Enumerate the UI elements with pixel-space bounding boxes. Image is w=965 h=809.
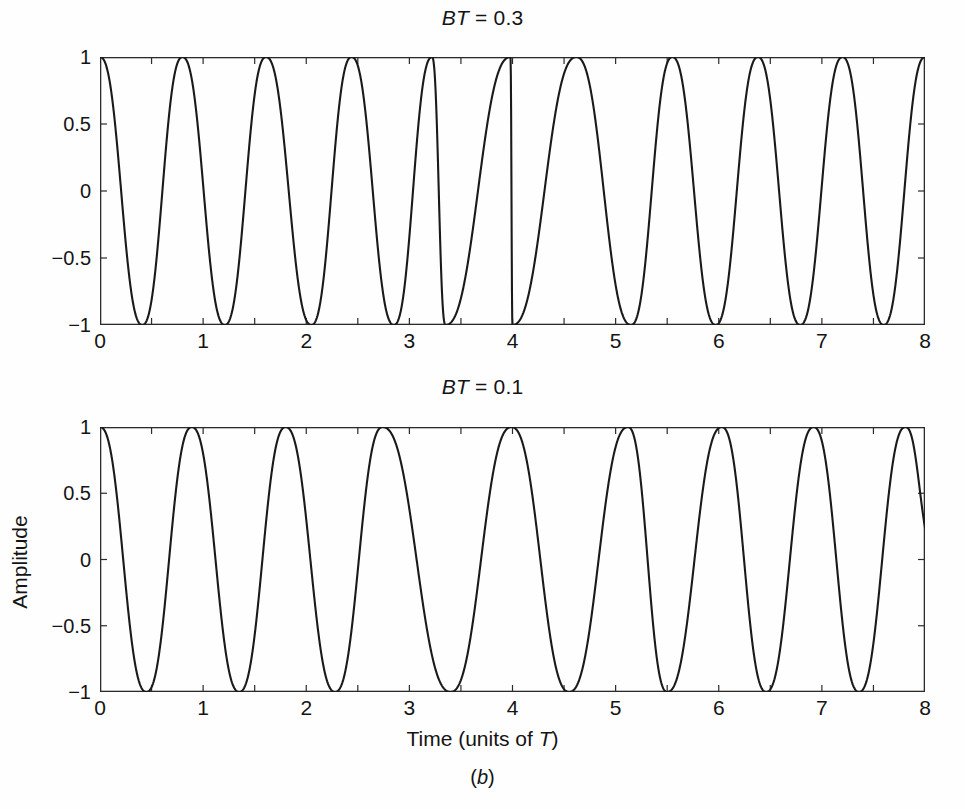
xtick-label-top-6: 6 (713, 329, 725, 353)
xtick-label-bottom-5: 5 (610, 696, 622, 720)
xtick-label-top-5: 5 (610, 329, 622, 353)
xtick-label-top-1: 1 (197, 329, 209, 353)
plot-area-top (100, 57, 925, 325)
xtick-label-top-3: 3 (404, 329, 416, 353)
xtick-label-top-4: 4 (507, 329, 519, 353)
panel-title-bottom: BT = 0.1 (0, 375, 965, 399)
x-axis-label-symbol: T (539, 727, 552, 750)
plot-box-top (100, 57, 925, 325)
x-axis-label-suffix: ) (552, 727, 559, 750)
ytick-label-top-2: 0.5 (63, 113, 91, 136)
panel-title-bottom-equals: = (469, 375, 494, 398)
xtick-label-top-0: 0 (94, 329, 106, 353)
panel-title-top-symbol: BT (442, 6, 469, 29)
ytick-label-bottom-3: 0 (80, 548, 91, 571)
xtick-label-top-8: 8 (919, 329, 931, 353)
ytick-label-bottom-2: 0.5 (63, 482, 91, 505)
plot-panel-top: 1 0.5 0 −0.5 −1 0 1 2 3 4 5 6 7 8 (100, 57, 925, 325)
xtick-label-bottom-1: 1 (197, 696, 209, 720)
panel-title-top-value: 0.3 (494, 6, 524, 29)
figure-caption-prefix: ( (470, 766, 477, 788)
xtick-label-bottom-4: 4 (507, 696, 519, 720)
xtick-label-bottom-8: 8 (919, 696, 931, 720)
figure-container: BT = 0.3 1 0.5 0 −0.5 −1 0 1 2 3 4 5 6 7… (0, 0, 965, 809)
x-axis-label: Time (units of T) (0, 727, 965, 751)
panel-title-top-equals: = (469, 6, 494, 29)
ytick-label-bottom-4: −0.5 (52, 614, 91, 637)
ytick-label-top-3: 0 (80, 180, 91, 203)
figure-caption-letter: b (477, 766, 488, 788)
panel-title-bottom-symbol: BT (442, 375, 469, 398)
xtick-label-bottom-6: 6 (713, 696, 725, 720)
ytick-label-bottom-5: −1 (68, 681, 91, 704)
figure-caption: (b) (0, 766, 965, 789)
panel-title-top: BT = 0.3 (0, 6, 965, 30)
xtick-label-bottom-7: 7 (816, 696, 828, 720)
plot-box-bottom (100, 427, 925, 692)
ytick-label-bottom-1: 1 (80, 416, 91, 439)
xtick-label-top-7: 7 (816, 329, 828, 353)
xtick-label-bottom-2: 2 (300, 696, 312, 720)
ytick-label-top-1: 1 (80, 46, 91, 69)
figure-caption-suffix: ) (488, 766, 495, 788)
y-axis-label: Amplitude (2, 452, 38, 672)
xtick-label-top-2: 2 (300, 329, 312, 353)
ytick-label-top-5: −1 (68, 314, 91, 337)
panel-title-bottom-value: 0.1 (494, 375, 524, 398)
ytick-label-top-4: −0.5 (52, 247, 91, 270)
x-axis-label-prefix: Time (units of (406, 727, 538, 750)
plot-area-bottom (100, 427, 925, 692)
xtick-label-bottom-0: 0 (94, 696, 106, 720)
xtick-label-bottom-3: 3 (404, 696, 416, 720)
y-axis-label-text: Amplitude (8, 515, 32, 608)
plot-panel-bottom: 1 0.5 0 −0.5 −1 0 1 2 3 4 5 6 7 8 (100, 427, 925, 692)
